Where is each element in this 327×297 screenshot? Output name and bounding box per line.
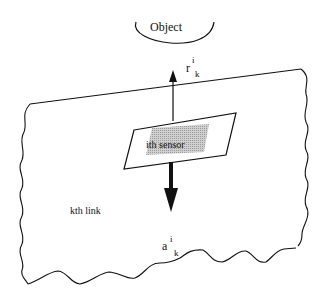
a-vector-label: a xyxy=(162,240,167,252)
sensor-label: ith sensor xyxy=(146,140,185,150)
r-superscript: i xyxy=(192,56,195,65)
a-subscript: k xyxy=(174,249,179,258)
r-vector-label: r xyxy=(186,62,190,74)
a-base: a xyxy=(162,239,167,253)
link-bottom-edge xyxy=(28,248,296,284)
diagram-canvas: Object r i k ith sensor kth link a i k xyxy=(0,0,327,297)
r-base: r xyxy=(186,61,190,75)
r-vector-arrowhead xyxy=(169,70,177,82)
a-superscript: i xyxy=(170,235,173,244)
object-label: Object xyxy=(150,21,182,33)
link-label: kth link xyxy=(70,206,101,216)
link-top-edge xyxy=(30,69,301,104)
link-left-edge xyxy=(20,104,30,284)
a-vector-arrowhead xyxy=(164,188,178,212)
link-right-edge xyxy=(298,69,308,246)
r-subscript: k xyxy=(195,70,200,79)
